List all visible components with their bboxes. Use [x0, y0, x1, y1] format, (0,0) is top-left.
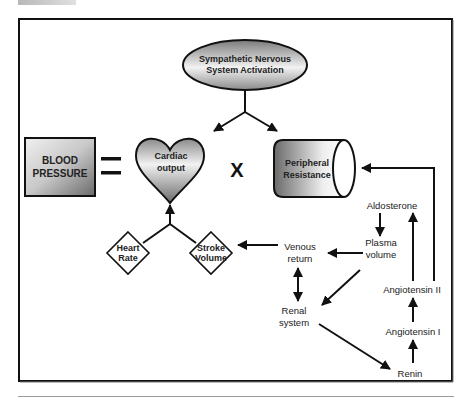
cardiac-output-label-line1: Cardiac	[154, 151, 187, 161]
multiply-sign: X	[230, 159, 244, 181]
heart-rate-label-line1: Heart	[116, 243, 139, 253]
renal-system-label-line2: system	[279, 317, 309, 328]
stroke-volume-label-line2: Volume	[195, 253, 227, 263]
bottom-divider	[18, 396, 454, 397]
hr-sv-arrows	[143, 205, 196, 243]
sympathetic-label-line1: Sympathetic Nervous	[199, 54, 291, 64]
angiotensin-i-node: Angiotensin I	[386, 326, 441, 337]
blood-pressure-label-line1: BLOOD	[42, 155, 78, 166]
stroke-volume-node: Stroke Volume	[190, 232, 232, 274]
plasma-volume-node: Plasma volume	[365, 237, 397, 260]
plasma-volume-label-line2: volume	[366, 249, 397, 260]
equals-sign	[101, 157, 121, 175]
blood-pressure-diagram: Sympathetic Nervous System Activation BL…	[0, 0, 474, 403]
angiotensin-ii-node: Angiotensin II	[383, 284, 441, 295]
hormonal-pathway-arrows	[298, 168, 434, 369]
venous-return-node: Venous return	[284, 241, 316, 264]
renal-system-node: Renal system	[279, 305, 309, 328]
peripheral-resistance-label-line2: Resistance	[283, 170, 331, 180]
plasma-volume-label-line1: Plasma	[365, 237, 397, 248]
cardiac-output-label-line2: output	[157, 163, 185, 173]
venous-return-label-line1: Venous	[284, 241, 316, 252]
sympathetic-label-line2: System Activation	[206, 65, 284, 75]
heart-rate-label-line2: Rate	[118, 253, 138, 263]
sympathetic-arrows	[214, 90, 277, 131]
heart-rate-node: Heart Rate	[107, 232, 149, 274]
cardiac-output-node: Cardiac output	[136, 139, 204, 203]
stroke-volume-label-line1: Stroke	[197, 243, 225, 253]
venous-return-label-line2: return	[288, 253, 313, 264]
peripheral-resistance-label-line1: Peripheral	[285, 158, 329, 168]
sympathetic-activation-node: Sympathetic Nervous System Activation	[183, 40, 307, 90]
renin-node: Renin	[398, 368, 423, 379]
renal-system-label-line1: Renal	[282, 305, 307, 316]
peripheral-resistance-node: Peripheral Resistance	[274, 140, 355, 197]
blood-pressure-label-line2: PRESSURE	[32, 168, 87, 179]
aldosterone-node: Aldosterone	[367, 200, 418, 211]
blood-pressure-node: BLOOD PRESSURE	[25, 138, 95, 196]
